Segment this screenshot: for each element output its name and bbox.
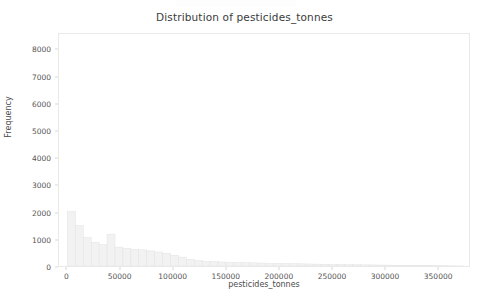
y-tick-label: 2000 [32, 208, 51, 217]
histogram-bar [210, 262, 218, 266]
y-tick-label: 5000 [32, 126, 51, 135]
y-tick-label: 1000 [32, 235, 51, 244]
histogram-bar [297, 264, 305, 266]
histogram-bar [281, 264, 289, 266]
histogram-bar [107, 234, 115, 266]
histogram-bar [67, 212, 75, 266]
y-axis: 010002000300040005000600070008000 [0, 33, 58, 267]
histogram-bar [123, 248, 131, 266]
x-tick-mark [66, 267, 67, 270]
histogram-bar [99, 245, 107, 266]
histogram-bar [329, 264, 337, 266]
x-axis-label: pesticides_tonnes [58, 280, 470, 289]
histogram-bar [131, 249, 139, 266]
histogram-bar [274, 263, 282, 266]
histogram-bar [369, 265, 377, 266]
histogram-bar [392, 265, 400, 266]
histogram-bar [178, 257, 186, 266]
histogram-bar [194, 261, 202, 266]
histogram-bar [408, 265, 416, 266]
histogram-bar [400, 265, 408, 266]
histogram-bar [242, 263, 250, 266]
histogram-figure: Distribution of pesticides_tonnes 010002… [0, 0, 489, 306]
x-tick-mark [331, 267, 332, 270]
histogram-bar [83, 237, 91, 266]
histogram-bar [226, 262, 234, 266]
histogram-bar [377, 265, 385, 266]
histogram-bar [361, 265, 369, 266]
chart-title: Distribution of pesticides_tonnes [0, 11, 489, 23]
histogram-bar [416, 265, 424, 266]
y-tick-label: 0 [46, 263, 51, 272]
x-tick-mark [172, 267, 173, 270]
histogram-bar [313, 264, 321, 266]
histogram-bar [234, 262, 242, 266]
histogram-bar [353, 265, 361, 266]
histogram-bar [170, 255, 178, 266]
x-tick-mark [119, 267, 120, 270]
histogram-bar [115, 247, 123, 266]
histogram-bar [75, 226, 83, 266]
histogram-bar [202, 261, 210, 266]
x-tick-mark [225, 267, 226, 270]
histogram-bar [337, 264, 345, 266]
y-tick-label: 3000 [32, 181, 51, 190]
raster-artifact [176, 0, 296, 7]
histogram-bar [289, 264, 297, 266]
histogram-bar [147, 251, 155, 266]
y-axis-label: Frequency [4, 96, 13, 137]
x-tick-mark [278, 267, 279, 270]
y-tick-label: 4000 [32, 154, 51, 163]
histogram-bar [163, 253, 171, 266]
y-tick-label: 8000 [32, 45, 51, 54]
histogram-bar [321, 264, 329, 266]
plot-area [58, 33, 470, 267]
histogram-bar [258, 263, 266, 266]
bars-group [67, 212, 463, 266]
histogram-bar [91, 242, 99, 266]
histogram-bar [250, 263, 258, 266]
histogram-bar [139, 250, 147, 266]
x-tick-mark [385, 267, 386, 270]
y-tick-label: 7000 [32, 72, 51, 81]
y-tick-label: 6000 [32, 99, 51, 108]
histogram-bar [266, 263, 274, 266]
histogram-bar [155, 252, 163, 266]
x-tick-mark [438, 267, 439, 270]
histogram-bars [59, 34, 469, 266]
histogram-bar [305, 264, 313, 266]
histogram-bar [345, 265, 353, 266]
histogram-bar [384, 265, 392, 266]
histogram-bar [186, 259, 194, 266]
histogram-bar [218, 262, 226, 266]
